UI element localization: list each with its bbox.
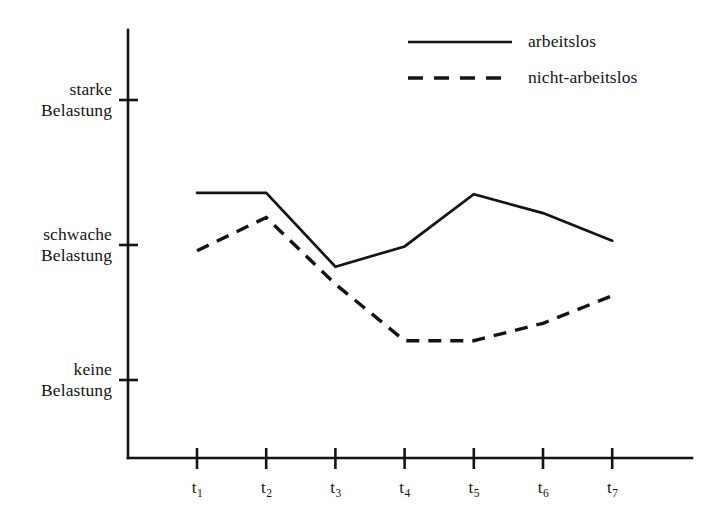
- y-axis-label-line1: schwache: [0, 224, 112, 245]
- x-axis-tick-label: t4: [399, 478, 409, 498]
- series-line-arbeitslos: [197, 193, 612, 267]
- x-axis-tick-label: t2: [261, 478, 271, 498]
- y-axis-label-line2: Belastung: [0, 100, 112, 121]
- x-axis-tick-label: t7: [607, 478, 617, 498]
- chart-container: starke Belastung schwache Belastung kein…: [0, 0, 703, 518]
- y-axis-label-schwache: schwache Belastung: [0, 224, 112, 265]
- y-axis-label-line1: keine: [0, 359, 112, 380]
- x-axis-tick-label: t5: [469, 478, 479, 498]
- y-axis-label-keine: keine Belastung: [0, 359, 112, 400]
- y-axis-label-starke: starke Belastung: [0, 79, 112, 120]
- legend-label-arbeitslos: arbeitslos: [528, 31, 596, 52]
- series-line-nicht-arbeitslos: [197, 217, 612, 340]
- x-axis-tick-label: t6: [538, 478, 548, 498]
- x-axis-tick-label: t3: [330, 478, 340, 498]
- y-axis-label-line2: Belastung: [0, 245, 112, 266]
- y-axis-label-line1: starke: [0, 79, 112, 100]
- legend-label-nicht-arbeitslos: nicht-arbeitslos: [528, 67, 638, 88]
- x-axis-tick-label: t1: [192, 478, 202, 498]
- y-axis-label-line2: Belastung: [0, 380, 112, 401]
